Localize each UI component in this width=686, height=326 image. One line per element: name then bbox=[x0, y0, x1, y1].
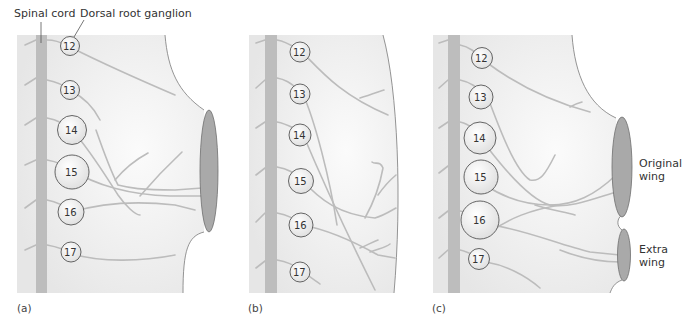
ganglion-label-a-14: 14 bbox=[65, 124, 78, 137]
ganglion-label-b-15: 15 bbox=[294, 175, 307, 188]
ganglion-label-b-16: 16 bbox=[294, 219, 307, 232]
ganglion-label-a-12: 12 bbox=[63, 40, 76, 53]
ganglion-label-c-14: 14 bbox=[473, 132, 486, 145]
ganglion-label-a-17: 17 bbox=[64, 246, 77, 259]
ganglion-label-c-12: 12 bbox=[475, 52, 488, 65]
ganglion-label-a-15: 15 bbox=[65, 166, 78, 179]
original-wing-label-line2: wing bbox=[639, 170, 665, 183]
spinal-cord-a bbox=[36, 35, 47, 293]
ganglion-label-b-17: 17 bbox=[293, 266, 306, 279]
ganglion-label-c-16: 16 bbox=[473, 214, 486, 227]
ganglion-label-b-14: 14 bbox=[293, 129, 306, 142]
panel-label-c: (c) bbox=[432, 302, 446, 315]
original-wing-label-line1: Original bbox=[639, 157, 682, 170]
panel-a bbox=[17, 20, 218, 293]
spinal-cord-c bbox=[448, 35, 460, 293]
spinal-cord-b bbox=[265, 35, 277, 293]
wing-bud-a bbox=[200, 110, 218, 232]
extra-wing bbox=[618, 229, 631, 281]
diagram-canvas bbox=[0, 0, 686, 326]
dorsal-root-ganglion-label: Dorsal root ganglion bbox=[80, 7, 192, 20]
ganglion-leader bbox=[74, 20, 84, 37]
extra-wing-label-line2: wing bbox=[639, 256, 665, 269]
figure: Spinal cord Dorsal root ganglion 12 13 1… bbox=[0, 0, 686, 326]
spinal-cord-label: Spinal cord bbox=[14, 7, 75, 20]
ganglion-label-c-13: 13 bbox=[474, 91, 487, 104]
panel-c bbox=[433, 35, 632, 293]
panel-label-a: (a) bbox=[17, 302, 32, 315]
ganglion-label-b-13: 13 bbox=[293, 88, 306, 101]
panel-label-b: (b) bbox=[248, 302, 263, 315]
extra-wing-label-line1: Extra bbox=[639, 243, 668, 256]
ganglion-label-c-17: 17 bbox=[472, 253, 485, 266]
body-wall-c bbox=[433, 35, 622, 293]
ganglion-label-c-15: 15 bbox=[474, 171, 487, 184]
original-wing bbox=[612, 117, 632, 217]
ganglion-label-b-12: 12 bbox=[293, 46, 306, 59]
ganglion-label-a-16: 16 bbox=[64, 206, 77, 219]
panel-b bbox=[249, 35, 398, 293]
ganglion-label-a-13: 13 bbox=[63, 84, 76, 97]
